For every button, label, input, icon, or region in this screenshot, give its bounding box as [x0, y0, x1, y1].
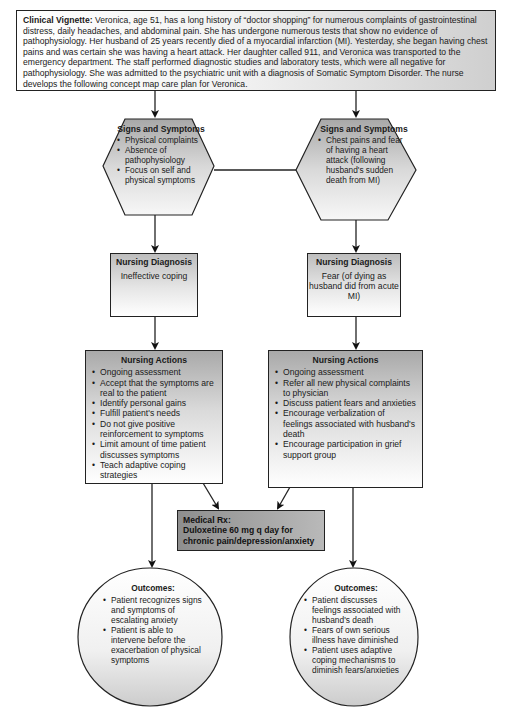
left-outcomes-title: Outcomes:	[103, 583, 203, 593]
vignette-label: Clinical Vignette:	[23, 15, 93, 25]
left-nursing-diagnosis-box: Nursing Diagnosis Ineffective coping	[110, 253, 198, 317]
left-diagnosis-value: Ineffective coping	[111, 271, 197, 281]
left-signs-symptoms: Signs and Symptoms Physical complaints A…	[117, 124, 205, 185]
left-outcomes-list: Patient recognizes signs and symptoms of…	[103, 595, 203, 665]
right-outcomes-title: Outcomes:	[304, 583, 408, 593]
list-item: Discuss patient fears and anxieties	[275, 398, 416, 408]
list-item: Patient discusses feelings associated wi…	[304, 595, 408, 625]
list-item: Physical complaints	[117, 135, 205, 145]
list-item: Focus on self and physical symptoms	[117, 165, 205, 185]
left-outcomes: Outcomes: Patient recognizes signs and s…	[103, 583, 203, 665]
right-outcomes: Outcomes: Patient discusses feelings ass…	[304, 583, 408, 675]
list-item: Chest pains and fear of having a heart a…	[318, 135, 410, 185]
left-actions-list: Ongoing assessment Accept that the sympt…	[92, 367, 216, 480]
list-item: Identify personal gains	[92, 398, 216, 408]
right-diagnosis-value: Fear (of dying as husband did from acute…	[308, 271, 400, 301]
list-item: Do not give positive reinforcement to sy…	[92, 419, 216, 440]
list-item: Teach adaptive coping strategies	[92, 460, 216, 481]
list-item: Patient is able to intervene before the …	[103, 625, 203, 665]
right-actions-list: Ongoing assessment Refer all new physica…	[275, 367, 416, 460]
right-signs-symptoms: Signs and Symptoms Chest pains and fear …	[318, 124, 410, 185]
list-item: Ongoing assessment	[275, 367, 416, 377]
list-item: Limit amount of time patient discusses s…	[92, 439, 216, 460]
clinical-vignette-box: Clinical Vignette: Veronica, age 51, has…	[16, 10, 496, 91]
list-item: Encourage participation in grief support…	[275, 439, 416, 460]
list-item: Absence of pathophysiology	[117, 145, 205, 165]
connector-layer	[0, 0, 519, 707]
right-signs-title: Signs and Symptoms	[318, 124, 410, 134]
vignette-text: Veronica, age 51, has a long history of …	[23, 15, 488, 89]
left-diagnosis-title: Nursing Diagnosis	[111, 257, 197, 267]
list-item: Refer all new physical complaints to phy…	[275, 378, 416, 399]
list-item: Ongoing assessment	[92, 367, 216, 377]
right-actions-title: Nursing Actions	[275, 355, 416, 365]
medical-rx-text: Duloxetine 60 mg q day for chronic pain/…	[183, 525, 319, 546]
right-nursing-actions-box: Nursing Actions Ongoing assessment Refer…	[268, 350, 423, 488]
right-diagnosis-title: Nursing Diagnosis	[308, 257, 400, 267]
right-nursing-diagnosis-box: Nursing Diagnosis Fear (of dying as husb…	[307, 253, 401, 317]
left-signs-list: Physical complaints Absence of pathophys…	[117, 135, 205, 185]
medical-rx-title: Medical Rx:	[183, 515, 319, 525]
list-item: Fulfill patient's needs	[92, 408, 216, 418]
list-item: Patient recognizes signs and symptoms of…	[103, 595, 203, 625]
left-signs-title: Signs and Symptoms	[117, 124, 205, 134]
left-nursing-actions-box: Nursing Actions Ongoing assessment Accep…	[85, 350, 223, 484]
right-outcomes-list: Patient discusses feelings associated wi…	[304, 595, 408, 675]
list-item: Fears of own serious illness have dimini…	[304, 625, 408, 645]
list-item: Patient uses adaptive coping mechanisms …	[304, 645, 408, 675]
right-signs-list: Chest pains and fear of having a heart a…	[318, 135, 410, 185]
list-item: Encourage verbalization of feelings asso…	[275, 408, 416, 439]
list-item: Accept that the symptoms are real to the…	[92, 378, 216, 399]
medical-rx-box: Medical Rx: Duloxetine 60 mg q day for c…	[177, 510, 325, 551]
left-actions-title: Nursing Actions	[92, 355, 216, 365]
